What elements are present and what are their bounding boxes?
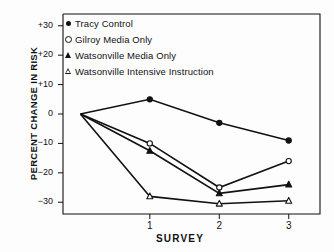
x-tick-label: 1 (140, 220, 160, 231)
x-axis-title: SURVEY (120, 233, 240, 244)
y-tick-label: −20 (19, 167, 53, 177)
legend-item: Watsonville Media Only (63, 47, 214, 63)
y-tick-label: +30 (19, 20, 53, 30)
filled-circle-marker (217, 120, 222, 125)
x-axis-ticks (150, 214, 289, 219)
y-tick-label: +10 (19, 79, 53, 89)
filled-circle-icon (63, 17, 75, 29)
legend-item-label: Watsonville Media Only (75, 50, 176, 61)
filled-triangle-marker (286, 181, 292, 187)
open-circle-icon (63, 33, 75, 45)
x-tick-label: 2 (209, 220, 229, 231)
data-series-group (80, 97, 291, 206)
y-tick-label: +20 (19, 49, 53, 59)
series-line (80, 99, 288, 140)
legend-item: Watsonville Intensive Instruction (63, 63, 214, 79)
open-circle-marker (286, 159, 291, 164)
filled-circle-marker (286, 138, 291, 143)
legend-item-label: Tracy Control (75, 18, 133, 29)
filled-triangle-marker (147, 147, 153, 153)
filled-triangle-icon (63, 49, 75, 61)
chart-container: PERCENT CHANGE IN RISK SURVEY Tracy Cont… (0, 0, 334, 252)
legend-item-label: Watsonville Intensive Instruction (75, 66, 214, 77)
series-1 (80, 97, 291, 143)
open-triangle-marker (286, 197, 292, 203)
filled-triangle-marker (216, 190, 222, 196)
chart-legend: Tracy Control Gilroy Media Only Watsonvi… (63, 15, 214, 79)
series-line (80, 114, 288, 193)
open-triangle-icon (63, 65, 75, 77)
open-circle-marker (217, 185, 222, 190)
legend-item: Tracy Control (63, 15, 214, 31)
y-tick-label: −30 (19, 196, 53, 206)
y-tick-label: −10 (19, 137, 53, 147)
open-circle-marker (147, 141, 152, 146)
filled-circle-marker (147, 97, 152, 102)
x-tick-label: 3 (279, 220, 299, 231)
y-tick-label: 0 (19, 108, 53, 118)
legend-item-label: Gilroy Media Only (75, 34, 152, 45)
legend-item: Gilroy Media Only (63, 31, 214, 47)
series-3 (80, 114, 291, 196)
open-triangle-marker (216, 200, 222, 206)
